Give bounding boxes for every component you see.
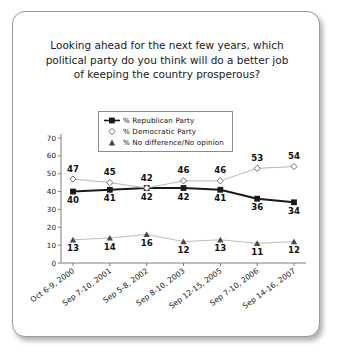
chart-plot-area: 010203040506070Oct 6-9, 2000Sep 7-10, 20… [13, 12, 321, 338]
y-axis-tick-label: 60 [47, 151, 57, 160]
data-point-label: 46 [178, 165, 190, 175]
data-point-label: 47 [67, 164, 79, 174]
data-point-label: 40 [67, 195, 79, 205]
data-point-label: 12 [288, 245, 300, 255]
data-point-label: 41 [104, 193, 116, 203]
data-point-marker [70, 189, 76, 195]
data-point-label: 14 [104, 242, 116, 252]
data-point-marker [291, 163, 297, 169]
data-point-label: 54 [288, 151, 300, 161]
data-point-marker [107, 187, 113, 193]
data-point-marker [180, 178, 186, 184]
data-point-label: 13 [67, 243, 79, 253]
y-axis-tick-label: 20 [47, 223, 57, 232]
data-point-label: 16 [141, 238, 153, 248]
data-point-label: 13 [214, 243, 226, 253]
chart-card: Looking ahead for the next few years, wh… [12, 11, 320, 337]
y-axis-tick-label: 40 [47, 187, 57, 196]
data-point-label: 36 [251, 202, 263, 212]
y-axis-tick-label: 30 [47, 205, 57, 214]
data-point-marker [70, 176, 76, 182]
y-axis-tick-label: 0 [51, 259, 56, 268]
data-point-marker [254, 196, 260, 202]
data-point-label: 46 [214, 165, 226, 175]
data-point-label: 41 [214, 193, 226, 203]
data-point-label: 12 [178, 245, 190, 255]
data-point-label: 42 [141, 173, 153, 183]
y-axis-tick-label: 50 [47, 169, 57, 178]
data-point-marker [107, 180, 113, 186]
data-point-marker [254, 165, 260, 171]
data-point-label: 34 [288, 206, 300, 216]
data-point-label: 42 [178, 192, 190, 202]
data-point-label: 45 [104, 167, 116, 177]
data-point-label: 53 [251, 153, 263, 163]
data-point-label: 11 [251, 247, 263, 257]
y-axis-tick-label: 10 [47, 241, 57, 250]
data-point-marker [181, 185, 187, 191]
data-point-label: 42 [141, 192, 153, 202]
data-point-marker [291, 199, 297, 205]
data-point-marker [217, 187, 223, 193]
y-axis-tick-label: 70 [47, 134, 57, 143]
data-point-marker [217, 178, 223, 184]
